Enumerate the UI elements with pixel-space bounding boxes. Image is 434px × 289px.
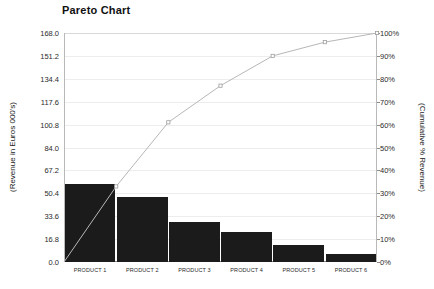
y-axis-right-tick: 90%	[380, 51, 395, 60]
y-axis-left-tick: 117.6	[41, 97, 59, 106]
y-axis-right-tick: 0%	[380, 258, 391, 267]
y-axis-left: 0.016.833.650.467.284.0100.8117.6134.415…	[0, 33, 59, 262]
y-axis-right-tick: 70%	[380, 97, 395, 106]
x-axis-tick-label: PRODUCT 1	[64, 264, 116, 278]
cumulative-marker	[115, 185, 118, 188]
y-axis-left-tick: 168.0	[40, 29, 59, 38]
x-axis-tick-label: PRODUCT 2	[116, 264, 168, 278]
cumulative-marker	[219, 84, 222, 87]
x-axis-labels: PRODUCT 1PRODUCT 2PRODUCT 3PRODUCT 4PROD…	[64, 264, 377, 278]
y-axis-right-tick-mark	[377, 193, 380, 194]
y-axis-right-tick-mark	[377, 79, 380, 80]
y-axis-right-tick: 80%	[380, 74, 395, 83]
y-axis-right-tick-mark	[377, 262, 380, 263]
y-axis-left-tick: 50.4	[44, 189, 59, 198]
y-axis-right-tick-mark	[377, 56, 380, 57]
y-axis-left-tick: 134.4	[40, 74, 59, 83]
x-axis-tick-label: PRODUCT 3	[168, 264, 220, 278]
cumulative-marker	[271, 54, 274, 57]
y-axis-right-tick: 40%	[380, 166, 395, 175]
y-axis-right-tick: 60%	[380, 120, 395, 129]
y-axis-left-tick: 0.0	[49, 258, 59, 267]
y-axis-right-tick-mark	[377, 148, 380, 149]
y-axis-right-tick-mark	[377, 170, 380, 171]
y-axis-right-tick: 20%	[380, 212, 395, 221]
x-axis-tick-label: PRODUCT 6	[325, 264, 377, 278]
y-axis-right-tick: 10%	[380, 235, 395, 244]
y-axis-right-tick-mark	[377, 102, 380, 103]
y-axis-right-tick-mark	[377, 239, 380, 240]
y-axis-left-tick: 67.2	[44, 166, 59, 175]
pareto-chart: Pareto Chart (Revenue in Euros 000's) (C…	[0, 0, 434, 289]
y-axis-right-tick: 30%	[380, 189, 395, 198]
chart-title: Pareto Chart	[62, 4, 130, 16]
cumulative-marker	[323, 41, 326, 44]
y-axis-left-tick: 151.2	[40, 51, 59, 60]
cumulative-line	[64, 33, 377, 262]
y-axis-right-tick: 100%	[380, 29, 399, 38]
x-axis-tick-label: PRODUCT 5	[273, 264, 325, 278]
y-axis-right-tick-mark	[377, 216, 380, 217]
y-axis-left-tick: 33.6	[44, 212, 59, 221]
x-axis-tick-label: PRODUCT 4	[221, 264, 273, 278]
y-axis-left-tick: 16.8	[44, 235, 59, 244]
plot-area	[64, 33, 377, 262]
y-axis-left-tick: 100.8	[40, 120, 59, 129]
cumulative-marker	[375, 31, 378, 34]
cumulative-marker	[167, 121, 170, 124]
y-axis-right-tick-mark	[377, 125, 380, 126]
cumulative-line-layer	[64, 33, 377, 262]
y-axis-left-tick: 84.0	[44, 143, 59, 152]
y-axis-right: 0%10%20%30%40%50%60%70%80%90%100%	[380, 33, 420, 262]
y-axis-right-tick: 50%	[380, 143, 395, 152]
